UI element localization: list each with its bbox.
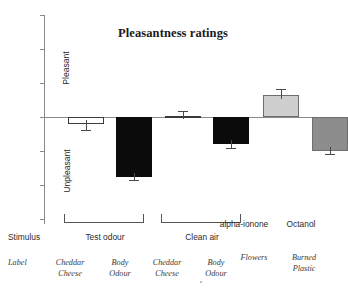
stray-dot-mark	[200, 281, 202, 283]
y-axis-line	[44, 15, 45, 224]
label-cell: Cheddar Cheese	[141, 258, 193, 279]
error-bar-cap-6	[325, 154, 335, 155]
y-tick-mark	[40, 15, 44, 16]
label-line-2: Cheese	[141, 269, 193, 280]
axis-label-unpleasant: Unpleasant	[62, 135, 72, 207]
label-line-1: Burned	[278, 253, 330, 264]
bar-2	[116, 117, 152, 177]
label-line-2: Cheese	[44, 269, 96, 280]
error-bar-1	[86, 120, 87, 130]
error-bar-6	[330, 147, 331, 154]
label-line-1: Cheddar	[44, 258, 96, 269]
error-bar-4	[231, 140, 232, 147]
stimulus-clean-air: Clean air	[141, 232, 263, 242]
plot-area: 1.5 1 0.5 0 -0.5 -1 -1.5 Pleasant Unplea…	[44, 15, 324, 224]
error-bar-5	[281, 89, 282, 98]
label-line-1: Flowers	[226, 253, 282, 264]
label-line-2: Plastic	[278, 264, 330, 275]
y-tick-mark	[40, 49, 44, 50]
group-bracket-test-odour	[64, 214, 144, 223]
label-cell: Flowers	[226, 253, 282, 264]
label-cell: Burned Plastic	[278, 253, 330, 274]
y-tick-mark	[40, 83, 44, 84]
label-line-1: Body	[96, 258, 144, 269]
label-line-1: Cheddar	[141, 258, 193, 269]
stimulus-octanol: Octanol	[273, 219, 329, 229]
error-bar-cap-1	[81, 130, 91, 131]
y-tick-mark	[40, 151, 44, 152]
label-line-2: Odour	[192, 269, 240, 280]
y-tick-mark	[40, 219, 44, 220]
label-cell: Body Odour	[96, 258, 144, 279]
error-bar-cap-4	[226, 148, 236, 149]
label-line-2: Odour	[96, 269, 144, 280]
error-bar-3	[183, 111, 184, 119]
label-row-header: Label	[8, 258, 42, 269]
stimulus-alpha-ionone: alpha-ionone	[208, 219, 280, 229]
y-tick-mark	[40, 185, 44, 186]
axis-label-pleasant: Pleasant	[61, 38, 71, 98]
error-bar-cap-3	[178, 111, 188, 112]
y-tick-mark	[40, 117, 44, 118]
label-cell: Cheddar Cheese	[44, 258, 96, 279]
error-bar-2	[134, 173, 135, 180]
stimulus-row-header: Stimulus	[8, 232, 40, 242]
bar-6	[312, 117, 348, 151]
error-bar-cap-2	[129, 180, 139, 181]
error-bar-cap-5	[276, 89, 286, 90]
